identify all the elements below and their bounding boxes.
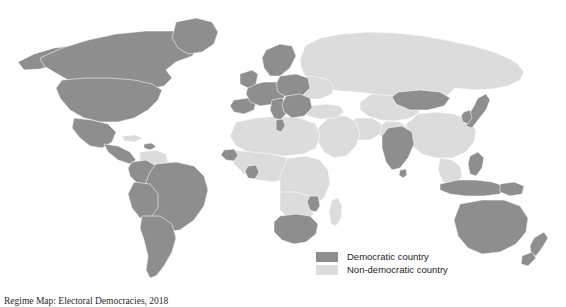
map-legend: Democratic country Non-democratic countr…	[316, 250, 516, 276]
legend-label-non-democratic: Non-democratic country	[347, 264, 448, 275]
figure-caption: Regime Map: Electoral Democracies, 2018	[4, 295, 168, 307]
legend-label-democratic: Democratic country	[347, 251, 429, 262]
legend-swatch-democratic	[316, 252, 338, 262]
legend-item-democratic: Democratic country	[316, 250, 516, 263]
region-north-africa	[230, 116, 320, 156]
legend-swatch-non-democratic	[316, 265, 338, 275]
world-choropleth-map	[0, 0, 566, 285]
legend-item-non-democratic: Non-democratic country	[316, 263, 516, 276]
